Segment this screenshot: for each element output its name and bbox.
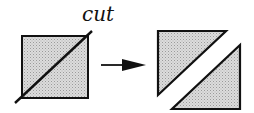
cut-diagram [0, 0, 254, 113]
arrow-right-icon [101, 59, 146, 71]
cut-label: cut [82, 2, 114, 26]
